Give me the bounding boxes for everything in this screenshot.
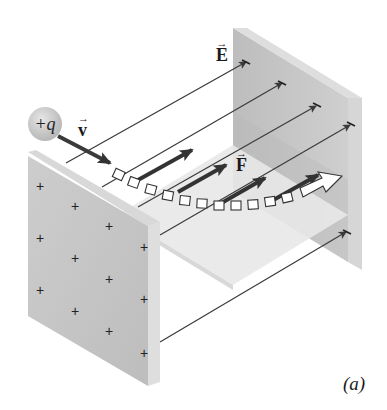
svg-text:+: + <box>105 218 113 234</box>
svg-text:+: + <box>140 345 148 361</box>
force-label: → F <box>236 155 247 176</box>
svg-text:+: + <box>140 291 148 307</box>
charge-label: +q <box>34 114 55 135</box>
svg-text:+: + <box>36 282 44 298</box>
svg-text:+: + <box>36 178 44 194</box>
svg-text:+: + <box>105 271 113 287</box>
vector-arrow-icon: → <box>78 113 87 124</box>
vector-arrow-icon: → <box>236 148 247 159</box>
svg-text:+: + <box>71 198 79 214</box>
svg-text:+: + <box>71 250 79 266</box>
vector-arrow-icon: → <box>216 38 228 49</box>
svg-text:+: + <box>105 323 113 339</box>
velocity-label: → v <box>78 120 87 141</box>
figure-caption: (a) <box>343 373 365 395</box>
capacitor-diagram: + + + + + + + + + + + + <box>0 0 387 410</box>
field-label: → E <box>216 45 228 66</box>
svg-text:+: + <box>71 303 79 319</box>
charge-particle: +q <box>28 107 62 141</box>
svg-text:+: + <box>140 239 148 255</box>
svg-text:+: + <box>36 230 44 246</box>
diagram-stage: + + + + + + + + + + + + +q → v → E → F (… <box>0 0 387 410</box>
